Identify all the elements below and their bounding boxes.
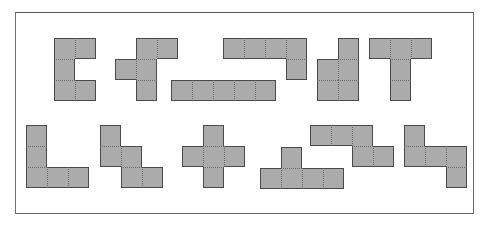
piece-cell: [234, 80, 255, 101]
piece-cell: [446, 167, 467, 188]
piece-cell: [323, 168, 344, 189]
piece-cell: [54, 80, 75, 101]
piece-cell: [281, 147, 302, 168]
piece-cell: [75, 38, 96, 59]
piece-cell: [26, 125, 47, 146]
piece-cell: [100, 125, 121, 146]
piece-cell: [390, 59, 411, 80]
piece-cell: [47, 167, 68, 188]
piece-cell: [446, 146, 467, 167]
piece-cell: [192, 80, 213, 101]
piece-cell: [136, 38, 157, 59]
piece-cell: [223, 38, 244, 59]
piece-cell: [317, 59, 338, 80]
piece-cell: [54, 59, 75, 80]
piece-cell: [203, 125, 224, 146]
piece-cell: [352, 146, 373, 167]
piece-cell: [404, 125, 425, 146]
piece-cell: [54, 38, 75, 59]
piece-cell: [331, 125, 352, 146]
piece-cell: [373, 146, 394, 167]
piece-cell: [213, 80, 234, 101]
piece-cell: [255, 80, 276, 101]
piece-cell: [115, 59, 136, 80]
piece-cell: [121, 146, 142, 167]
piece-cell: [390, 38, 411, 59]
piece-cell: [338, 59, 359, 80]
piece-cell: [75, 80, 96, 101]
piece-cell: [203, 146, 224, 167]
piece-cell: [68, 167, 89, 188]
piece-cell: [203, 167, 224, 188]
piece-cell: [136, 59, 157, 80]
piece-cell: [136, 80, 157, 101]
piece-cell: [352, 125, 373, 146]
piece-cell: [281, 168, 302, 189]
piece-cell: [404, 146, 425, 167]
piece-cell: [338, 38, 359, 59]
piece-cell: [26, 167, 47, 188]
piece-cell: [171, 80, 192, 101]
piece-cell: [425, 146, 446, 167]
piece-cell: [121, 167, 142, 188]
piece-cell: [286, 38, 307, 59]
piece-cell: [411, 38, 432, 59]
piece-cell: [244, 38, 265, 59]
piece-cell: [157, 38, 178, 59]
piece-cell: [286, 59, 307, 80]
piece-cell: [100, 146, 121, 167]
piece-cell: [338, 80, 359, 101]
piece-cell: [224, 146, 245, 167]
piece-cell: [265, 38, 286, 59]
piece-cell: [142, 167, 163, 188]
piece-cell: [390, 80, 411, 101]
piece-cell: [182, 146, 203, 167]
piece-cell: [310, 125, 331, 146]
piece-cell: [317, 80, 338, 101]
piece-cell: [369, 38, 390, 59]
piece-cell: [26, 146, 47, 167]
piece-cell: [260, 168, 281, 189]
piece-cell: [302, 168, 323, 189]
